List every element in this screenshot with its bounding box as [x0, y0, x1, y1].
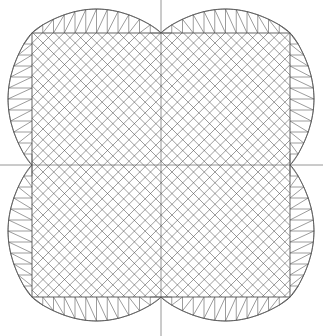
mesh-svg-canvas: [0, 0, 323, 336]
mesh-figure-panel: [0, 0, 323, 336]
